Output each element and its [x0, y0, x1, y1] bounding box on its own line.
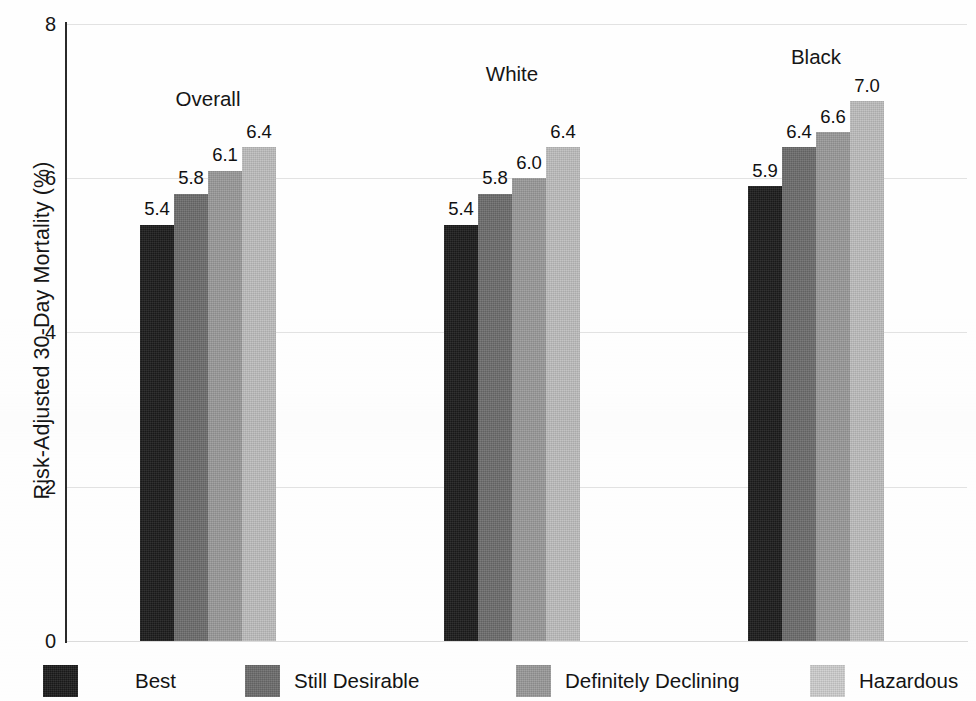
bar-value-overall-best: 5.4 — [144, 198, 169, 220]
legend-label-hazardous: Hazardous — [859, 669, 958, 693]
bar-value-white-hazardous: 6.4 — [550, 121, 575, 143]
y-tick-4: 4 — [12, 321, 56, 344]
bar-rect-black-definitely-declining[interactable] — [816, 132, 850, 641]
bar-rect-black-best[interactable] — [748, 186, 782, 641]
bar-black-definitely-declining[interactable]: 6.6 — [816, 24, 850, 641]
chart-legend: Best Still Desirable Definitely Declinin… — [0, 661, 976, 701]
bar-rect-black-still-desirable[interactable] — [782, 147, 816, 641]
bar-group-white: White 5.4 5.8 6.0 6.4 — [444, 24, 580, 641]
legend-swatch-definitely-declining-icon — [516, 665, 551, 697]
bar-group-black: Black 5.9 6.4 6.6 7.0 — [748, 24, 884, 641]
bar-overall-still-desirable[interactable]: 5.8 — [174, 24, 208, 641]
bar-white-hazardous[interactable]: 6.4 — [546, 24, 580, 641]
bar-chart-figure: Risk-Adjusted 30-Day Mortality (%) 8 6 4… — [0, 0, 976, 701]
legend-item-still-desirable[interactable]: Still Desirable — [245, 661, 419, 701]
bar-value-white-still-desirable: 5.8 — [482, 167, 507, 189]
y-tick-0: 0 — [12, 630, 56, 653]
bar-rect-overall-hazardous[interactable] — [242, 147, 276, 641]
y-tick-6: 6 — [12, 167, 56, 190]
bar-overall-hazardous[interactable]: 6.4 — [242, 24, 276, 641]
bar-value-white-best: 5.4 — [448, 198, 473, 220]
legend-label-definitely-declining: Definitely Declining — [565, 669, 739, 693]
y-axis-tick-labels: 8 6 4 2 0 — [0, 0, 56, 701]
bar-group-overall-bars: 5.4 5.8 6.1 6.4 — [140, 24, 276, 641]
bar-value-black-hazardous: 7.0 — [854, 75, 879, 97]
legend-item-hazardous[interactable]: Hazardous — [810, 661, 958, 701]
y-tick-2: 2 — [12, 476, 56, 499]
bar-value-white-definitely-declining: 6.0 — [516, 152, 541, 174]
bar-white-still-desirable[interactable]: 5.8 — [478, 24, 512, 641]
bar-rect-overall-still-desirable[interactable] — [174, 194, 208, 641]
bar-group-white-bars: 5.4 5.8 6.0 6.4 — [444, 24, 580, 641]
bar-white-definitely-declining[interactable]: 6.0 — [512, 24, 546, 641]
bar-value-black-best: 5.9 — [752, 160, 777, 182]
x-axis-line — [67, 641, 968, 642]
legend-item-definitely-declining[interactable]: Definitely Declining — [516, 661, 739, 701]
legend-label-still-desirable: Still Desirable — [294, 669, 419, 693]
bar-white-best[interactable]: 5.4 — [444, 24, 478, 641]
legend-swatch-still-desirable-icon — [245, 665, 280, 697]
bar-rect-overall-definitely-declining[interactable] — [208, 171, 242, 641]
bar-black-still-desirable[interactable]: 6.4 — [782, 24, 816, 641]
bar-value-overall-hazardous: 6.4 — [246, 121, 271, 143]
bar-value-overall-still-desirable: 5.8 — [178, 167, 203, 189]
legend-swatch-hazardous-icon — [810, 665, 845, 697]
bar-rect-white-hazardous[interactable] — [546, 147, 580, 641]
bar-black-hazardous[interactable]: 7.0 — [850, 24, 884, 641]
bar-overall-best[interactable]: 5.4 — [140, 24, 174, 641]
bar-rect-white-definitely-declining[interactable] — [512, 178, 546, 641]
bar-rect-black-hazardous[interactable] — [850, 101, 884, 641]
bar-value-black-still-desirable: 6.4 — [786, 121, 811, 143]
legend-swatch-best-icon — [43, 665, 78, 697]
bar-value-black-definitely-declining: 6.6 — [820, 106, 845, 128]
bar-value-overall-definitely-declining: 6.1 — [212, 144, 237, 166]
bar-rect-white-best[interactable] — [444, 225, 478, 642]
plot-area: Overall 5.4 5.8 6.1 6.4 — [67, 24, 967, 641]
legend-item-best[interactable]: Best — [43, 661, 176, 701]
bar-overall-definitely-declining[interactable]: 6.1 — [208, 24, 242, 641]
y-tick-8: 8 — [12, 13, 56, 36]
bar-black-best[interactable]: 5.9 — [748, 24, 782, 641]
bar-group-overall: Overall 5.4 5.8 6.1 6.4 — [140, 24, 276, 641]
bar-rect-white-still-desirable[interactable] — [478, 194, 512, 641]
bar-group-black-bars: 5.9 6.4 6.6 7.0 — [748, 24, 884, 641]
bar-rect-overall-best[interactable] — [140, 225, 174, 642]
legend-label-best: Best — [135, 669, 176, 693]
